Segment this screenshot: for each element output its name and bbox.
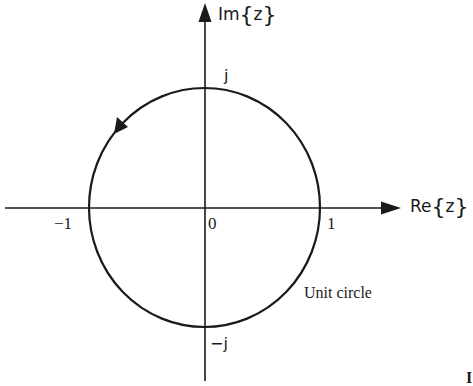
tick-pos-one: 1 bbox=[327, 215, 336, 232]
unit-circle-label: Unit circle bbox=[304, 285, 372, 301]
imaginary-axis-arrow-icon bbox=[199, 3, 212, 22]
imaginary-axis-label: Im{z} bbox=[218, 4, 277, 26]
tick-origin: 0 bbox=[208, 215, 217, 232]
real-axis-label: Re{z} bbox=[410, 196, 468, 218]
corner-fragment: I bbox=[466, 370, 472, 386]
brace-open: { bbox=[240, 2, 254, 27]
brace-close: } bbox=[263, 2, 277, 27]
imaginary-axis-label-main: Im bbox=[218, 4, 240, 24]
tick-pos-j: j bbox=[224, 68, 228, 84]
real-axis-label-main: Re bbox=[410, 196, 432, 216]
brace-close: } bbox=[454, 194, 468, 219]
imaginary-axis-label-var: z bbox=[254, 4, 263, 24]
tick-neg-j: −j bbox=[210, 336, 228, 352]
brace-open: { bbox=[432, 194, 446, 219]
real-axis-arrow-icon bbox=[381, 202, 401, 215]
tick-neg-one: −1 bbox=[54, 215, 72, 232]
